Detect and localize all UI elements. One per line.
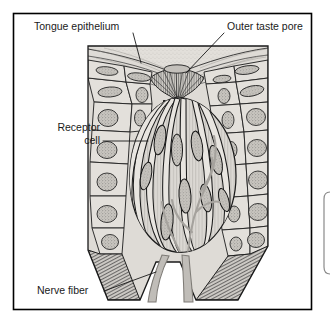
tissue-block [88, 46, 268, 300]
figure-root: Tongue epithelium Outer taste pore Recep… [0, 0, 336, 324]
taste-bud-figure: Tongue epithelium Outer taste pore Recep… [0, 0, 336, 324]
label-tongue-epithelium: Tongue epithelium [34, 20, 119, 32]
label-outer-taste-pore: Outer taste pore [227, 20, 303, 32]
label-receptor-cell-line2: cell [84, 134, 100, 146]
label-nerve-fiber: Nerve fiber [37, 284, 89, 296]
label-receptor-cell-line1: Receptor [57, 121, 100, 133]
